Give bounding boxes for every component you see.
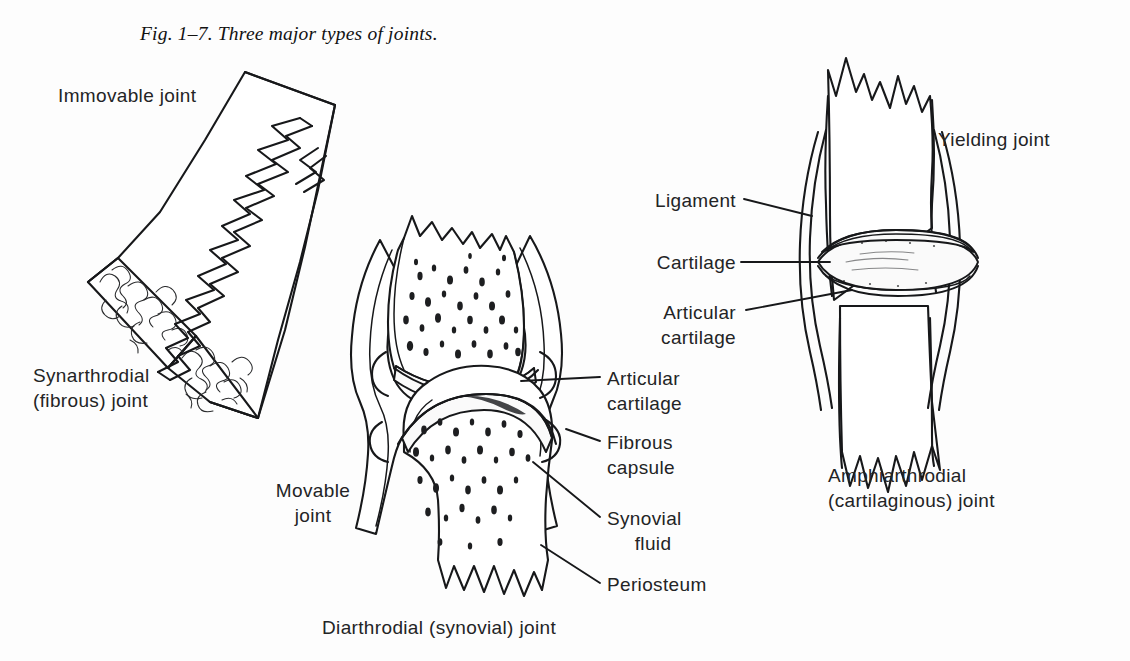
label-amphiarthrodial-line2: (cartilaginous) joint [828,488,995,513]
leader-fibrous-capsule [566,429,600,441]
leader-articular-cartilage-right [746,290,852,310]
label-immovable-joint: Immovable joint [58,83,196,108]
label-fibrous-capsule-line1: Fibrous [607,430,673,455]
figure-root: Fig. 1–7. Three major types of joints. I… [0,0,1130,661]
label-synarthrodial-line2: (fibrous) joint [33,388,148,413]
label-articular-cartilage-middle-line1: Articular [607,366,680,391]
figure-caption: Fig. 1–7. Three major types of joints. [140,23,438,45]
label-movable-joint-line2: joint [258,503,368,528]
label-articular-cartilage-middle-line2: cartilage [607,391,682,416]
amphiarthrodial-joint-drawing [741,58,978,492]
label-synovial-fluid-line1: Synovial [607,506,682,531]
label-synovial-fluid-line2: fluid [607,531,699,556]
label-synarthrodial-line1: Synarthrodial [33,363,150,388]
label-diarthrodial-joint: Diarthrodial (synovial) joint [322,615,556,640]
label-periosteum: Periosteum [607,572,707,597]
label-articular-cartilage-right-line2: cartilage [591,325,736,350]
label-ligament: Ligament [591,188,736,213]
label-articular-cartilage-right-line1: Articular [591,300,736,325]
label-yielding-joint: Yielding joint [938,127,1050,152]
diarthrodial-joint-drawing [351,216,600,596]
label-movable-joint-line1: Movable [258,478,368,503]
label-cartilage: Cartilage [591,250,736,275]
label-amphiarthrodial-line1: Amphiarthrodial [828,463,966,488]
leader-periosteum [541,545,600,583]
label-fibrous-capsule-line2: capsule [607,455,675,480]
